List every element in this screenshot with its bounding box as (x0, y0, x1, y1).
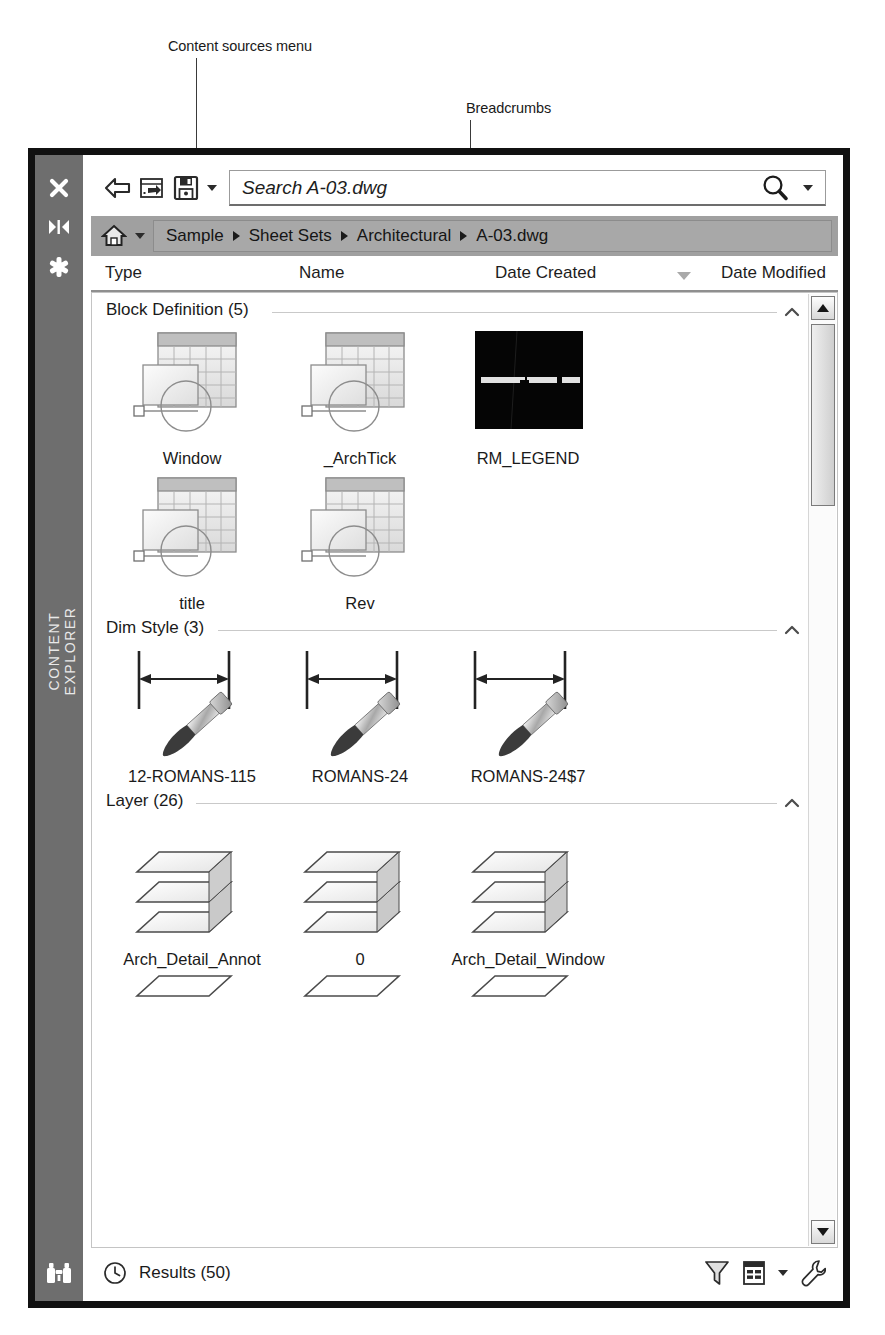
block-definition-icon (297, 472, 423, 590)
list-item[interactable]: ROMANS-24$7 (444, 645, 612, 786)
section-label: Dim Style (3) (106, 618, 204, 638)
scroll-thumb[interactable] (811, 324, 835, 506)
content-explorer-panel: Search A-03.dwg Sample (83, 155, 843, 1301)
list-item-label: ROMANS-24$7 (448, 766, 608, 786)
breadcrumb-item-a-03-dwg[interactable]: A-03.dwg (476, 226, 548, 246)
section-rule (196, 803, 777, 804)
clock-icon (103, 1261, 127, 1285)
search-options-caret[interactable] (797, 185, 825, 191)
layer-icon (465, 828, 591, 946)
binoculars-icon[interactable] (46, 1261, 72, 1289)
breadcrumb-item-architectural[interactable]: Architectural (357, 226, 451, 246)
list-item[interactable]: _ArchTick (276, 327, 444, 468)
annotation-label: Content sources menu (168, 38, 312, 54)
vertical-scrollbar[interactable] (808, 294, 836, 1246)
list-item[interactable]: 12-ROMANS-115 (108, 645, 276, 786)
list-item[interactable] (444, 972, 612, 1012)
section-rule (272, 312, 777, 313)
save-dropdown-caret[interactable] (203, 171, 221, 205)
chevron-up-icon[interactable] (783, 303, 801, 321)
close-icon[interactable] (35, 177, 83, 199)
view-list-icon[interactable] (742, 1260, 766, 1286)
panel-title-label: CONTENT EXPLORER (46, 566, 78, 736)
dim-style-icon (297, 645, 423, 763)
search-box[interactable]: Search A-03.dwg (229, 170, 826, 206)
chevron-up-icon[interactable] (783, 794, 801, 812)
save-button[interactable] (169, 171, 203, 205)
chevron-up-icon[interactable] (783, 621, 801, 639)
preview-thumbnail-dark (465, 327, 591, 445)
breadcrumb[interactable]: Sample Sheet Sets Architectural A-03.dwg (153, 220, 832, 252)
annotation-leader-line (196, 58, 197, 148)
list-item-label: title (112, 593, 272, 613)
section-rule (218, 630, 777, 631)
list-item[interactable]: RM_LEGEND (444, 327, 612, 468)
column-header-name[interactable]: Name (299, 263, 344, 283)
layer-icon (297, 828, 423, 946)
toolbar: Search A-03.dwg (91, 160, 838, 216)
list-item[interactable]: title (108, 472, 276, 613)
section-header-layer[interactable]: Layer (26) (92, 788, 807, 818)
panel-properties-icon[interactable] (35, 255, 83, 279)
auto-hide-icon[interactable] (35, 217, 83, 237)
list-item-label: Window (112, 448, 272, 468)
section-label: Block Definition (5) (106, 300, 249, 320)
content-sources-menu-caret[interactable] (131, 233, 149, 239)
list-item[interactable] (108, 972, 276, 1012)
results-pane: Block Definition (5) (91, 292, 838, 1248)
window-inner-frame: CONTENT EXPLORER (28, 148, 850, 1308)
status-bar-tools (704, 1259, 826, 1287)
list-item[interactable]: Arch_Detail_Annot (108, 828, 276, 969)
list-item-label: Arch_Detail_Window (448, 949, 608, 969)
list-item[interactable]: Rev (276, 472, 444, 613)
breadcrumb-item-sample[interactable]: Sample (166, 226, 224, 246)
panel-title-strip: CONTENT EXPLORER (35, 155, 83, 1301)
column-headers: Type Name Date Created Date Modified (91, 256, 838, 292)
list-item-label: Rev (280, 593, 440, 613)
list-item-label: Arch_Detail_Annot (112, 949, 272, 969)
scroll-down-arrow[interactable] (811, 1220, 835, 1244)
sort-descending-icon[interactable] (677, 272, 691, 280)
filter-funnel-icon[interactable] (704, 1259, 730, 1287)
layer-icon (465, 972, 591, 1012)
result-row: title (92, 472, 807, 613)
list-item-empty (444, 472, 612, 613)
layer-icon (297, 972, 423, 1012)
list-item[interactable]: Arch_Detail_Window (444, 828, 612, 969)
dim-style-icon (465, 645, 591, 763)
column-header-date-created[interactable]: Date Created (495, 263, 596, 283)
results-count-label: Results (50) (139, 1263, 231, 1283)
layer-icon (129, 972, 255, 1012)
breadcrumb-separator-icon (341, 231, 348, 241)
list-item[interactable]: ROMANS-24 (276, 645, 444, 786)
search-input[interactable]: Search A-03.dwg (230, 177, 753, 199)
list-item[interactable] (276, 972, 444, 1012)
breadcrumb-item-sheet-sets[interactable]: Sheet Sets (249, 226, 332, 246)
status-bar: Results (50) (91, 1250, 838, 1296)
result-row-partial (92, 972, 807, 1012)
list-item-label: 0 (280, 949, 440, 969)
column-header-type[interactable]: Type (105, 263, 142, 283)
column-header-date-modified[interactable]: Date Modified (721, 263, 826, 283)
breadcrumb-separator-icon (233, 231, 240, 241)
list-item-label: RM_LEGEND (448, 448, 608, 468)
list-item-label: _ArchTick (280, 448, 440, 468)
scroll-up-arrow[interactable] (811, 296, 835, 320)
section-header-dim-style[interactable]: Dim Style (3) (92, 615, 807, 645)
list-item[interactable]: Window (108, 327, 276, 468)
back-button[interactable] (101, 171, 135, 205)
search-icon[interactable] (753, 173, 797, 203)
section-header-block-definition[interactable]: Block Definition (5) (92, 297, 807, 327)
results-list: Block Definition (5) (92, 293, 807, 1247)
view-options-caret[interactable] (778, 1270, 788, 1276)
list-item-label: ROMANS-24 (280, 766, 440, 786)
annotation-label: Breadcrumbs (466, 100, 551, 116)
add-content-source-button[interactable] (135, 171, 169, 205)
home-icon[interactable] (97, 219, 131, 253)
panel-content: Search A-03.dwg Sample (91, 160, 838, 1296)
content-explorer-window: CONTENT EXPLORER (28, 148, 850, 1308)
list-item[interactable]: 0 (276, 828, 444, 969)
wrench-icon[interactable] (800, 1259, 826, 1287)
block-definition-icon (297, 327, 423, 445)
breadcrumb-separator-icon (460, 231, 467, 241)
